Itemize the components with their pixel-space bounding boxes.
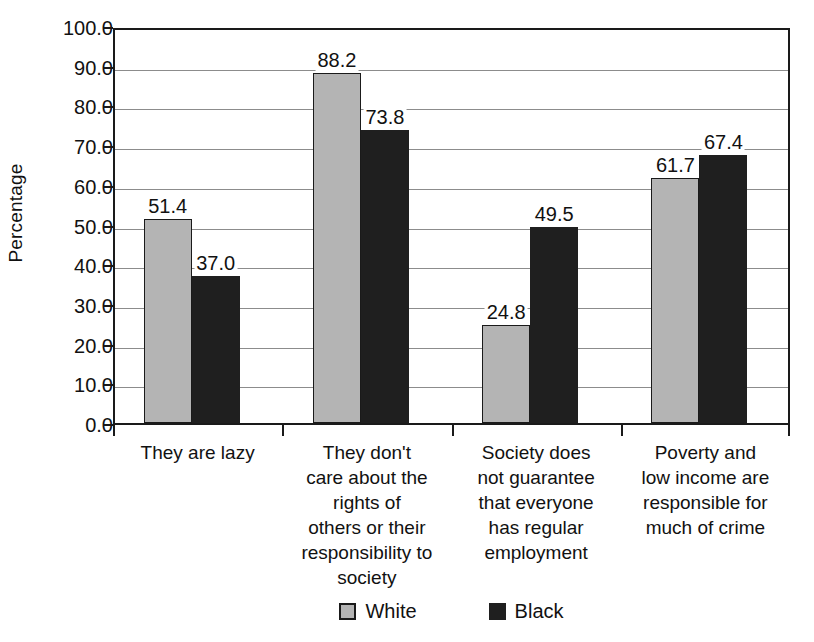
bar-group: 88.273.8 xyxy=(284,30,453,423)
bar-chart-figure: Percentage 100.090.080.070.060.050.040.0… xyxy=(0,0,814,642)
x-axis-category-line: has regular xyxy=(452,515,621,540)
y-axis-tick-label: 10.0 xyxy=(21,375,113,395)
x-axis-category-line: that everyone xyxy=(452,490,621,515)
y-axis-tick-label: 80.0 xyxy=(21,97,113,117)
plot-area: 51.437.088.273.824.849.561.767.4 xyxy=(113,28,790,425)
bar-white: 24.8 xyxy=(482,325,530,423)
bar-white: 88.2 xyxy=(313,73,361,423)
x-axis-tick-mark xyxy=(282,425,284,436)
y-axis-tick-label: 20.0 xyxy=(21,336,113,356)
bar-value-label: 73.8 xyxy=(363,106,406,128)
x-axis-category-line: much of crime xyxy=(621,515,790,540)
y-axis-tick-mark xyxy=(104,384,113,386)
y-axis-tick-label: 90.0 xyxy=(21,58,113,78)
x-axis-category-line: responsible for xyxy=(621,490,790,515)
x-axis-category-label: They don'tcare about therights ofothers … xyxy=(282,440,451,590)
y-axis-tick-mark xyxy=(104,424,113,426)
x-axis-category-line: not guarantee xyxy=(452,465,621,490)
legend-item-white[interactable]: White xyxy=(339,600,416,623)
y-axis-tick-mark xyxy=(104,345,113,347)
legend-label: White xyxy=(365,600,416,623)
x-axis-category-label: Society doesnot guaranteethat everyoneha… xyxy=(452,440,621,565)
y-axis-tick-mark xyxy=(104,305,113,307)
x-axis-category-line: low income are xyxy=(621,465,790,490)
y-axis-tick-mark xyxy=(104,226,113,228)
y-axis-tick-mark xyxy=(104,27,113,29)
y-axis-tick-label: 100.0 xyxy=(21,18,113,38)
bar-black: 49.5 xyxy=(530,227,578,424)
bar-value-label: 51.4 xyxy=(146,195,189,217)
x-axis-category-line: responsibility to xyxy=(282,540,451,565)
x-axis-category-line: others or their xyxy=(282,515,451,540)
bar-black: 67.4 xyxy=(699,155,747,423)
y-axis-tick-mark xyxy=(104,265,113,267)
bar-white: 51.4 xyxy=(144,219,192,423)
bar-value-label: 24.8 xyxy=(485,301,528,323)
x-axis-tick-mark xyxy=(621,425,623,436)
x-axis-category-label: Poverty andlow income areresponsible for… xyxy=(621,440,790,540)
bar-value-label: 37.0 xyxy=(194,252,237,274)
bar-group: 61.767.4 xyxy=(623,30,792,423)
y-axis-tick-label: 40.0 xyxy=(21,256,113,276)
legend-label: Black xyxy=(515,600,564,623)
bar-value-label: 49.5 xyxy=(533,203,576,225)
bar-white: 61.7 xyxy=(651,178,699,423)
x-axis-category-line: Poverty and xyxy=(621,440,790,465)
bar-value-label: 61.7 xyxy=(654,154,697,176)
x-axis-category-line: society xyxy=(282,565,451,590)
y-axis-tick-label: 30.0 xyxy=(21,296,113,316)
x-axis-tick-mark xyxy=(788,425,790,436)
y-axis-tick-mark xyxy=(104,106,113,108)
y-axis-ticks: 100.090.080.070.060.050.040.030.020.010.… xyxy=(0,28,113,425)
x-axis-category-line: employment xyxy=(452,540,621,565)
bar-group: 51.437.0 xyxy=(115,30,284,423)
legend-swatch-icon xyxy=(339,603,356,620)
x-axis-category-line: Society does xyxy=(452,440,621,465)
legend-item-black[interactable]: Black xyxy=(489,600,564,623)
y-axis-tick-mark xyxy=(104,146,113,148)
y-axis-tick-label: 50.0 xyxy=(21,217,113,237)
bar-value-label: 88.2 xyxy=(315,49,358,71)
x-axis-tick-mark xyxy=(113,425,115,436)
y-axis-tick-label: 70.0 xyxy=(21,137,113,157)
y-axis-tick-mark xyxy=(104,67,113,69)
x-axis-category-line: care about the xyxy=(282,465,451,490)
legend-swatch-icon xyxy=(489,603,506,620)
x-axis-tick-mark xyxy=(452,425,454,436)
bar-black: 73.8 xyxy=(361,130,409,423)
x-axis-category-labels: They are lazyThey don'tcare about therig… xyxy=(113,440,790,585)
x-axis-category-label: They are lazy xyxy=(113,440,282,465)
bar-black: 37.0 xyxy=(192,276,240,423)
bar-group: 24.849.5 xyxy=(454,30,623,423)
y-axis-tick-label: 60.0 xyxy=(21,177,113,197)
x-axis-category-line: rights of xyxy=(282,490,451,515)
y-axis-tick-mark xyxy=(104,186,113,188)
x-axis-category-line: They are lazy xyxy=(113,440,282,465)
bar-series-container: 51.437.088.273.824.849.561.767.4 xyxy=(115,30,788,423)
x-axis-category-line: They don't xyxy=(282,440,451,465)
x-axis-ticks xyxy=(113,425,790,437)
bar-value-label: 67.4 xyxy=(702,131,745,153)
chart-legend: WhiteBlack xyxy=(113,596,790,626)
y-axis-tick-label: 0.0 xyxy=(21,415,113,435)
